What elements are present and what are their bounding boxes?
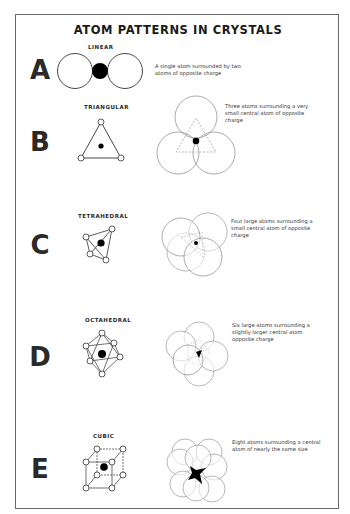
cubic-packing-diagram: [167, 439, 227, 502]
cubic-atom-diagram: [0, 0, 350, 514]
